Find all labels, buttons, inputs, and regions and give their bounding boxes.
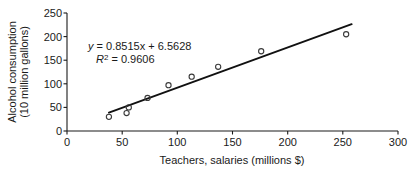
data-point-marker <box>106 114 111 119</box>
x-axis-title: Teachers, salaries (millions $) <box>160 154 305 166</box>
y-axis-title-line1: Alcohol consumption <box>6 21 18 123</box>
y-tick-label-100: 100 <box>44 78 62 90</box>
data-point-marker <box>259 49 264 54</box>
y-tick-label-150: 150 <box>44 54 62 66</box>
equation-body: = 0.8515x + 6.5628 <box>94 40 192 52</box>
r-squared-variable: R <box>96 53 104 65</box>
data-point-marker <box>216 64 221 69</box>
data-point-marker <box>166 83 171 88</box>
data-point-marker <box>124 110 129 115</box>
y-tick-label-200: 200 <box>44 31 62 43</box>
x-tick-label-250: 250 <box>334 136 352 148</box>
x-tick-label-50: 50 <box>116 136 128 148</box>
data-point-marker <box>344 32 349 37</box>
r-squared-body: = 0.9606 <box>108 53 154 65</box>
x-tick-label-300: 300 <box>389 136 407 148</box>
y-tick-label-50: 50 <box>50 101 62 113</box>
x-tick-label-200: 200 <box>279 136 297 148</box>
x-tick-label-0: 0 <box>64 136 70 148</box>
y-tick-label-0: 0 <box>56 125 62 137</box>
scatter-chart-figure: Alcohol consumption (10 million gallons)… <box>0 0 420 175</box>
y-tick-label-250: 250 <box>44 7 62 19</box>
data-point-marker <box>189 74 194 79</box>
x-tick-label-100: 100 <box>168 136 186 148</box>
regression-equation-annotation: y = 0.8515x + 6.5628 <box>87 40 191 52</box>
chart-canvas: Alcohol consumption (10 million gallons)… <box>0 0 420 175</box>
x-tick-label-150: 150 <box>223 136 241 148</box>
y-axis-title-line2: (10 million gallons) <box>18 26 30 118</box>
r-squared-annotation: R2 = 0.9606 <box>96 53 155 66</box>
